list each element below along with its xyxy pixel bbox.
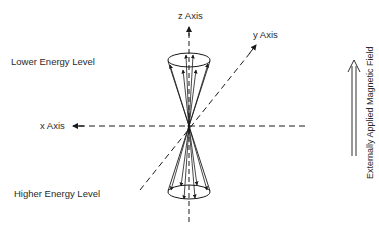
lower-energy-level-label: Lower Energy Level	[11, 57, 95, 67]
magnetic-field-label: Externally Applied Magnetic Field	[366, 46, 375, 179]
origin-point	[188, 125, 191, 128]
y-axis-label: y Axis	[253, 30, 278, 40]
magnetic-field-arrow	[348, 60, 360, 156]
x-axis-label: x Axis	[40, 121, 65, 131]
higher-energy-level-label: Higher Energy Level	[14, 189, 100, 199]
precession-cone-diagram: z Axis y Axis x Axis Lower Energy Level …	[0, 0, 379, 225]
z-axis-label: z Axis	[178, 11, 203, 21]
